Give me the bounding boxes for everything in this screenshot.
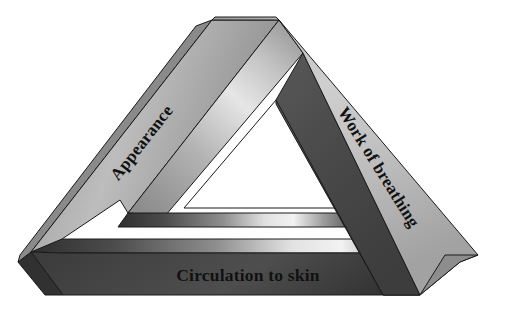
label-circulation-to-skin: Circulation to skin (176, 265, 320, 285)
pediatric-assessment-triangle-figure: Appearance Work of breathing Circulation… (0, 0, 505, 313)
label-circulation-to-skin-group: Circulation to skin (176, 265, 320, 285)
inner-bottom-rail (118, 213, 352, 227)
impossible-triangle-graphic: Appearance Work of breathing Circulation… (0, 0, 505, 313)
apex-top-facet (212, 17, 279, 20)
